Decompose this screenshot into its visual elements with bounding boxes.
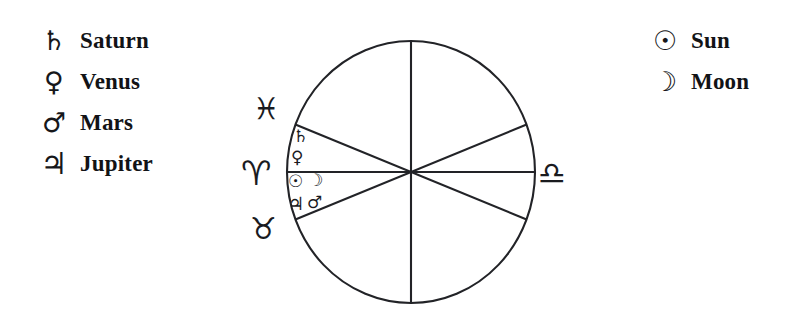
legend-item: ☽ Moon [645,61,749,102]
planet-legend-left: ♄ Saturn ♀ Venus ♂ Mars ♃ Jupiter [34,20,153,184]
horoscope-wheel: ♓ ♈ ♉ ♎ ♄ ♀ ☉ ☽ ♃ ♂ [225,18,585,321]
jupiter-glyph: ♃ [288,195,304,213]
legend-item: ♂ Mars [34,102,153,143]
taurus-glyph: ♉ [250,214,277,244]
legend-item-label: Sun [691,28,730,54]
wheel-svg [225,18,585,318]
legend-item-label: Moon [691,69,749,95]
legend-item-label: Saturn [80,28,149,54]
sun-glyph: ☉ [288,173,303,190]
jupiter-icon: ♃ [34,149,74,179]
saturn-glyph: ♄ [293,128,308,145]
legend-item-label: Mars [80,110,133,136]
venus-icon: ♀ [34,68,74,95]
libra-glyph: ♎ [538,158,566,189]
legend-item-label: Venus [80,69,140,95]
sun-icon: ☉ [645,27,685,54]
legend-item: ♄ Saturn [34,20,153,61]
mars-icon: ♂ [34,109,74,136]
moon-glyph: ☽ [308,172,323,189]
legend-item: ♃ Jupiter [34,143,153,184]
planet-legend-right: ☉ Sun ☽ Moon [645,20,749,102]
legend-item: ♀ Venus [34,61,153,102]
legend-item: ☉ Sun [645,20,749,61]
saturn-icon: ♄ [34,27,74,54]
moon-icon: ☽ [645,68,685,95]
mars-glyph: ♂ [307,194,322,211]
pisces-glyph: ♓ [253,94,280,124]
aries-glyph: ♈ [241,156,271,190]
venus-glyph: ♀ [291,149,303,166]
legend-item-label: Jupiter [80,151,153,177]
